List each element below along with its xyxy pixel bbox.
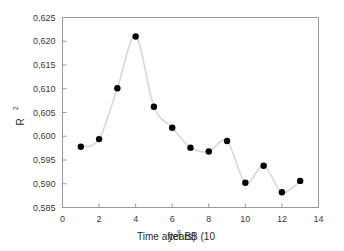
y-tick-label: 0,605 xyxy=(33,108,56,118)
data-point-marker xyxy=(297,178,303,184)
x-tick-label: 14 xyxy=(313,214,323,224)
data-point-marker xyxy=(132,33,138,39)
data-point-marker xyxy=(78,144,84,150)
y-tick-label: 0,585 xyxy=(33,203,56,213)
chart-container: 0,5850,5900,5950,6000,6050,6100,6150,620… xyxy=(0,0,344,251)
data-point-marker xyxy=(169,125,175,131)
x-tick-label: 12 xyxy=(277,214,287,224)
y-tick-label: 0,600 xyxy=(33,131,56,141)
data-point-marker xyxy=(96,136,102,142)
x-tick-label: 4 xyxy=(133,214,138,224)
x-tick-label: 0 xyxy=(60,214,65,224)
r-squared-vs-time-line-chart: 0,5850,5900,5950,6000,6050,6100,6150,620… xyxy=(0,0,344,251)
data-point-marker xyxy=(114,85,120,91)
y-tick-label: 0,615 xyxy=(33,60,56,70)
x-tick-label: 8 xyxy=(206,214,211,224)
y-tick-label: 0,620 xyxy=(33,36,56,46)
x-axis-title: Time after BB (10 9 years) xyxy=(137,229,215,242)
x-tick-label: 10 xyxy=(240,214,250,224)
data-point-marker xyxy=(260,163,266,169)
y-tick-label: 0,625 xyxy=(33,13,56,23)
y-axis-title-superscript: 2 xyxy=(12,106,19,110)
x-tick-label: 6 xyxy=(170,214,175,224)
x-axis-title-tail: years) xyxy=(168,231,196,242)
y-tick-label: 0,590 xyxy=(33,179,56,189)
data-point-marker xyxy=(206,148,212,154)
data-point-marker xyxy=(242,180,248,186)
data-point-marker xyxy=(187,144,193,150)
x-tick-label: 2 xyxy=(97,214,102,224)
data-point-marker xyxy=(224,138,230,144)
data-point-marker xyxy=(279,189,285,195)
data-point-marker xyxy=(151,104,157,110)
y-axis-tick-labels: 0,5850,5900,5950,6000,6050,6100,6150,620… xyxy=(33,13,56,213)
y-axis-title-text: R xyxy=(15,118,26,125)
y-tick-label: 0,595 xyxy=(33,155,56,165)
y-tick-label: 0,610 xyxy=(33,84,56,94)
